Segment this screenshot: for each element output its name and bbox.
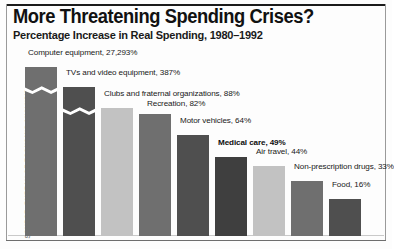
bar-label: Air travel, 44% (256, 147, 307, 156)
frame-bottom-rule (6, 240, 386, 241)
bar-label: Non-prescription drugs, 33% (294, 162, 394, 171)
plot-area: Computer equipment, 27,293%TVs and video… (8, 46, 384, 236)
bar-label: TVs and video equipment, 387% (66, 68, 180, 77)
bar (101, 108, 133, 236)
bar-label: Motor vehicles, 64% (180, 116, 251, 125)
bar (253, 166, 285, 236)
bar-label: Recreation, 82% (147, 99, 205, 108)
chart-title: More Threatening Spending Crises? (13, 6, 323, 26)
axis-break-zigzag-icon (63, 104, 95, 115)
bar (215, 157, 247, 236)
bar (139, 114, 171, 236)
bar (291, 181, 323, 236)
bar (25, 67, 57, 236)
bar-label: Medical care, 49% (218, 138, 286, 147)
bar (329, 199, 361, 236)
bar (63, 87, 95, 236)
frame-left-rule (6, 4, 7, 241)
bar-label: Food, 16% (332, 180, 370, 189)
bar-label: Computer equipment, 27,293% (28, 48, 137, 57)
frame-right-rule (385, 4, 386, 241)
bar-label: Clubs and fraternal organizations, 88% (104, 89, 240, 98)
bar (177, 135, 209, 236)
axis-break-zigzag-icon (25, 83, 57, 94)
chart-subtitle: Percentage Increase in Real Spending, 19… (13, 28, 336, 41)
